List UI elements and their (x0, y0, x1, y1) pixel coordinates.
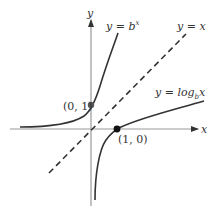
point-1-0 (114, 126, 121, 133)
identity-label: y = x (176, 20, 206, 33)
x-axis-label: x (201, 123, 208, 136)
point-1-0-label: (1, 0) (118, 133, 148, 146)
exponential-label: y = bx (105, 19, 139, 33)
logarithm-label: y = logbx (154, 86, 206, 101)
y-axis-label: y (86, 7, 94, 20)
function-graph: x y (0, 1) (1, 0) y = bx y = x y = logbx (0, 0, 216, 213)
logarithm-curve (95, 101, 204, 200)
point-0-1-label: (0, 1) (63, 100, 93, 113)
